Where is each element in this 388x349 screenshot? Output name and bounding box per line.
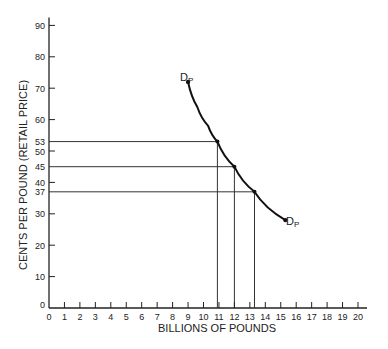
x-tick-label: 10 <box>198 312 208 322</box>
y-tick-label: 0 <box>40 300 45 310</box>
x-tick-label: 20 <box>353 312 363 322</box>
x-tick-label: 0 <box>46 312 51 322</box>
x-axis-label: BILLIONS OF POUNDS <box>158 322 276 334</box>
demand-chart: 0123456789101112131415161718192001020303… <box>0 0 388 349</box>
y-tick-label: 40 <box>35 178 45 188</box>
x-tick-label: 1 <box>62 312 67 322</box>
y-tick-label: 90 <box>35 21 45 31</box>
x-tick-label: 18 <box>322 312 332 322</box>
y-tick-label: 45 <box>35 162 45 172</box>
y-tick-label: 53 <box>35 137 45 147</box>
y-tick-label: 10 <box>35 272 45 282</box>
x-tick-label: 4 <box>108 312 113 322</box>
x-tick-label: 15 <box>276 312 286 322</box>
y-tick-label: 60 <box>35 115 45 125</box>
y-axis-label: CENTS PER POUND (RETAIL PRICE) <box>17 80 29 270</box>
demand-curve-path <box>188 82 285 220</box>
x-tick-label: 8 <box>170 312 175 322</box>
x-tick-label: 14 <box>260 312 270 322</box>
x-tick-label: 17 <box>307 312 317 322</box>
x-tick-label: 9 <box>186 312 191 322</box>
x-tick-label: 7 <box>155 312 160 322</box>
x-tick-label: 5 <box>124 312 129 322</box>
x-tick-label: 3 <box>93 312 98 322</box>
x-tick-label: 13 <box>245 312 255 322</box>
x-tick-label: 16 <box>291 312 301 322</box>
reference-lines <box>49 140 256 308</box>
x-tick-label: 11 <box>214 312 223 322</box>
x-tick-label: 2 <box>77 312 82 322</box>
y-tick-label: 80 <box>35 52 45 62</box>
curve-label-top: DP <box>180 71 193 85</box>
ticks: 0123456789101112131415161718192001020303… <box>35 21 363 322</box>
y-tick-label: 37 <box>35 187 45 197</box>
curve-label-bottom: DP <box>286 215 299 229</box>
axes <box>49 17 367 308</box>
x-tick-label: 19 <box>338 312 348 322</box>
y-tick-label: 20 <box>35 241 45 251</box>
y-tick-label: 30 <box>35 209 45 219</box>
y-tick-label: 50 <box>35 147 45 157</box>
demand-curve <box>186 80 288 223</box>
x-tick-label: 6 <box>139 312 144 322</box>
y-tick-label: 70 <box>35 84 45 94</box>
x-tick-label: 12 <box>229 312 239 322</box>
